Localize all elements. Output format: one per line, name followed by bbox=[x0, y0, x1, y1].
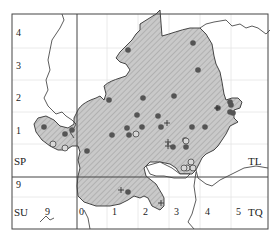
y-tick-label: 9 bbox=[16, 180, 21, 190]
grid-square-label: SU bbox=[14, 207, 28, 218]
filled-dot-marker bbox=[140, 95, 146, 101]
filled-dot-marker bbox=[125, 47, 131, 53]
filled-dot-marker bbox=[183, 144, 189, 150]
filled-dot-marker bbox=[170, 144, 176, 150]
filled-dot-marker bbox=[195, 67, 201, 73]
filled-dot-marker bbox=[228, 102, 234, 108]
x-tick-label: 2 bbox=[143, 207, 148, 217]
filled-dot-marker bbox=[230, 110, 236, 116]
open-circle-marker bbox=[188, 159, 194, 165]
grid-square-label: SP bbox=[14, 156, 26, 167]
open-circle-marker bbox=[133, 131, 139, 137]
filled-dot-marker bbox=[125, 189, 131, 195]
x-tick-label: 9 bbox=[45, 207, 50, 217]
x-tick-label: 5 bbox=[236, 207, 241, 217]
shaded-region bbox=[34, 10, 242, 210]
filled-dot-marker bbox=[189, 124, 195, 130]
x-tick-label: 0 bbox=[79, 207, 84, 217]
filled-dot-marker bbox=[106, 97, 112, 103]
grid-square-label: TQ bbox=[248, 207, 263, 218]
distribution-map bbox=[0, 0, 273, 235]
filled-dot-marker bbox=[126, 132, 132, 138]
filled-dot-marker bbox=[41, 124, 47, 130]
filled-dot-marker bbox=[158, 124, 164, 130]
grid-square-label: TL bbox=[248, 156, 261, 167]
filled-dot-marker bbox=[124, 125, 130, 131]
y-tick-label: 1 bbox=[16, 126, 21, 136]
open-circle-marker bbox=[50, 141, 56, 147]
filled-dot-marker bbox=[109, 132, 115, 138]
filled-dot-marker bbox=[190, 40, 196, 46]
filled-dot-marker bbox=[202, 124, 208, 130]
filled-dot-marker bbox=[155, 113, 161, 119]
x-tick-label: 1 bbox=[112, 207, 117, 217]
x-tick-label: 4 bbox=[205, 207, 210, 217]
open-circle-marker bbox=[190, 165, 196, 171]
open-circle-marker bbox=[183, 138, 189, 144]
filled-dot-marker bbox=[171, 93, 177, 99]
filled-dot-marker bbox=[84, 148, 90, 154]
filled-dot-marker bbox=[139, 124, 145, 130]
y-tick-label: 2 bbox=[16, 93, 21, 103]
y-tick-label: 3 bbox=[16, 61, 21, 71]
y-tick-label: 4 bbox=[16, 28, 21, 38]
filled-dot-marker bbox=[69, 127, 75, 133]
filled-dot-marker bbox=[134, 112, 140, 118]
x-tick-label: 3 bbox=[174, 207, 179, 217]
open-circle-marker bbox=[181, 165, 187, 171]
filled-dot-marker bbox=[62, 131, 68, 137]
open-circle-marker bbox=[62, 145, 68, 151]
